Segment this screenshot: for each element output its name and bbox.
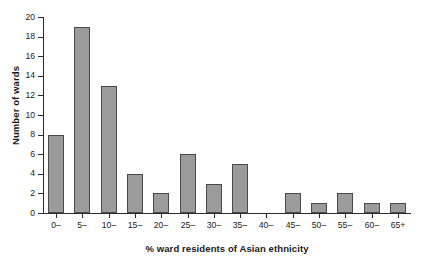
x-axis-tick	[345, 214, 346, 218]
y-axis-tick-label: 2	[0, 189, 35, 198]
x-axis-tick	[56, 214, 57, 218]
bar	[48, 135, 64, 213]
y-axis-tick-label: 16	[0, 52, 35, 61]
bar	[285, 193, 301, 213]
x-axis-tick	[372, 214, 373, 218]
x-axis-tick	[293, 214, 294, 218]
x-axis-tick	[161, 214, 162, 218]
x-axis-tick	[82, 214, 83, 218]
x-axis-tick	[398, 214, 399, 218]
bar	[101, 86, 117, 213]
x-axis-tick	[109, 214, 110, 218]
x-axis-tick	[240, 214, 241, 218]
bar	[74, 27, 90, 213]
y-axis-tick-label: 0	[0, 209, 35, 218]
bar	[390, 203, 406, 213]
x-axis-tick	[214, 214, 215, 218]
x-axis-title: % ward residents of Asian ethnicity	[43, 243, 411, 254]
y-axis-tick-label: 10	[0, 111, 35, 120]
y-axis-tick-label: 20	[0, 13, 35, 22]
x-axis-tick	[266, 214, 267, 218]
bar	[153, 193, 169, 213]
x-axis-tick	[319, 214, 320, 218]
chart-figure: Number of wards 02468101214161820 0–5–10…	[0, 0, 437, 265]
x-axis-tick-label: 65+	[378, 220, 418, 230]
y-axis-tick-label: 4	[0, 169, 35, 178]
bar	[180, 154, 196, 213]
x-axis-line	[43, 213, 411, 214]
y-axis-tick-label: 8	[0, 130, 35, 139]
y-axis-tick-label: 12	[0, 91, 35, 100]
bar	[127, 174, 143, 213]
plot-area	[43, 17, 411, 213]
bar	[364, 203, 380, 213]
y-axis-tick-label: 14	[0, 71, 35, 80]
bar	[232, 164, 248, 213]
x-axis-tick	[188, 214, 189, 218]
y-axis-tick-label: 6	[0, 150, 35, 159]
y-axis-tick	[38, 213, 43, 214]
y-axis-tick-label: 18	[0, 32, 35, 41]
bar	[337, 193, 353, 213]
bar	[206, 184, 222, 213]
x-axis-tick	[135, 214, 136, 218]
bar	[311, 203, 327, 213]
